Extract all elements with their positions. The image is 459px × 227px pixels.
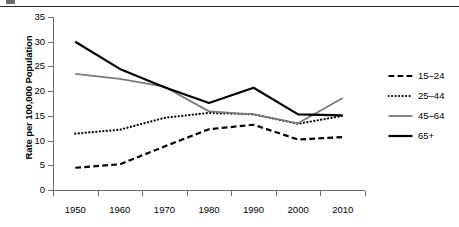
y-tick-label-wrap: 0 bbox=[18, 185, 45, 195]
y-tick-mark bbox=[48, 141, 53, 142]
clipped-text-fragment bbox=[6, 0, 15, 4]
series-line-4564 bbox=[75, 74, 342, 123]
gray-solid-line-swatch bbox=[388, 111, 413, 121]
series-line-1524 bbox=[75, 125, 342, 168]
y-tick-mark bbox=[48, 42, 53, 43]
x-tick-label: 1960 bbox=[109, 204, 130, 215]
x-tick-label: 1990 bbox=[243, 204, 264, 215]
x-tick-mark bbox=[53, 191, 54, 196]
legend-item-65+[interactable]: 65+ bbox=[388, 126, 459, 146]
black-solid-line-swatch bbox=[388, 131, 413, 141]
x-tick-label: 2000 bbox=[288, 204, 309, 215]
y-tick-label: 0 bbox=[18, 185, 45, 195]
y-tick-label-wrap: 10 bbox=[18, 136, 45, 146]
x-tick-label: 1980 bbox=[198, 204, 219, 215]
x-tick-label-wrap: 2010 bbox=[323, 199, 363, 217]
x-tick-label-wrap: 1950 bbox=[55, 199, 95, 217]
x-tick-mark bbox=[98, 191, 99, 196]
legend-label: 65+ bbox=[418, 131, 434, 141]
legend-item-1524[interactable]: 15–24 bbox=[388, 66, 459, 86]
legend-label: 15–24 bbox=[418, 71, 444, 81]
y-tick-label-wrap: 30 bbox=[18, 37, 45, 47]
legend-label: 45–64 bbox=[418, 111, 444, 121]
x-tick-mark bbox=[142, 191, 143, 196]
y-tick-mark bbox=[48, 66, 53, 67]
x-tick-label: 1950 bbox=[65, 204, 86, 215]
y-tick-label-wrap: 15 bbox=[18, 111, 45, 121]
chart-figure: Rate per 100,000 Population 051015202530… bbox=[0, 0, 459, 227]
y-tick-mark bbox=[48, 17, 53, 18]
x-tick-label-wrap: 1960 bbox=[100, 199, 140, 217]
x-tick-label-wrap: 2000 bbox=[278, 199, 318, 217]
legend-item-4564[interactable]: 45–64 bbox=[388, 106, 459, 126]
series-line-2544 bbox=[75, 113, 342, 134]
y-tick-label-wrap: 20 bbox=[18, 86, 45, 96]
y-tick-label: 25 bbox=[18, 61, 45, 71]
x-tick-mark bbox=[187, 191, 188, 196]
y-tick-label-wrap: 5 bbox=[18, 160, 45, 170]
x-tick-mark bbox=[365, 191, 366, 196]
y-tick-label: 15 bbox=[18, 111, 45, 121]
x-axis-line bbox=[53, 190, 365, 191]
x-tick-label-wrap: 1980 bbox=[189, 199, 229, 217]
x-tick-mark bbox=[320, 191, 321, 196]
dashed-line-swatch bbox=[388, 71, 413, 81]
y-tick-label: 10 bbox=[18, 136, 45, 146]
legend-label: 25–44 bbox=[418, 91, 444, 101]
y-tick-mark bbox=[48, 91, 53, 92]
top-horizontal-rule bbox=[0, 6, 459, 7]
y-tick-label: 5 bbox=[18, 160, 45, 170]
y-tick-label: 20 bbox=[18, 86, 45, 96]
x-tick-mark bbox=[231, 191, 232, 196]
y-tick-mark bbox=[48, 165, 53, 166]
chart-legend: 15–2425–4445–6465+ bbox=[388, 66, 459, 146]
x-tick-label: 2010 bbox=[332, 204, 353, 215]
x-tick-label-wrap: 1990 bbox=[234, 199, 274, 217]
x-tick-label: 1970 bbox=[154, 204, 175, 215]
y-tick-label-wrap: 35 bbox=[18, 12, 45, 22]
dotted-line-swatch bbox=[388, 91, 413, 101]
y-tick-label: 35 bbox=[18, 12, 45, 22]
x-tick-label-wrap: 1970 bbox=[144, 199, 184, 217]
series-line-65+ bbox=[75, 42, 342, 116]
y-tick-label: 30 bbox=[18, 37, 45, 47]
y-axis-line bbox=[53, 17, 54, 191]
x-tick-mark bbox=[276, 191, 277, 196]
legend-item-2544[interactable]: 25–44 bbox=[388, 86, 459, 106]
y-tick-mark bbox=[48, 116, 53, 117]
y-tick-label-wrap: 25 bbox=[18, 61, 45, 71]
